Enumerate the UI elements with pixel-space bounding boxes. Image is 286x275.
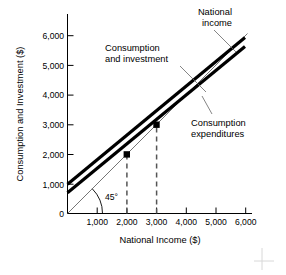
- origin-label: 0: [59, 209, 64, 219]
- y-tick-label-5000: 5,000: [42, 61, 64, 71]
- annotation-consumption-and-investment-line2: and investment: [105, 54, 168, 64]
- y-tick-label-1000: 1,000: [42, 180, 64, 190]
- y-tick-label-3000: 3,000: [42, 120, 64, 130]
- chart-figure: 1,000 2,000 3,000 4,000 5,000 6,000 0 Co…: [0, 0, 286, 275]
- data-point-2000: [124, 151, 130, 157]
- y-tick-label-2000: 2,000: [42, 150, 64, 160]
- angle-label: 45°: [105, 192, 118, 202]
- x-tick-label-1000: 1,000: [86, 217, 108, 227]
- x-tick-label-3000: 3,000: [146, 217, 168, 227]
- x-tick-label-2000: 2,000: [116, 217, 138, 227]
- y-tick-label-6000: 6,000: [42, 31, 64, 41]
- annotation-consumption-expenditures-line2: expenditures: [191, 129, 245, 139]
- y-tick-label-4000: 4,000: [42, 90, 64, 100]
- x-axis-title: National Income ($): [119, 235, 200, 245]
- annotation-national-income-line2: income: [202, 18, 232, 28]
- economics-line-chart: 1,000 2,000 3,000 4,000 5,000 6,000 0 Co…: [0, 0, 286, 275]
- y-axis-title: Consumption and Investment ($): [15, 47, 25, 182]
- x-tick-label-4000: 4,000: [176, 217, 198, 227]
- annotation-consumption-expenditures-line1: Consumption: [191, 118, 246, 128]
- annotation-consumption-and-investment-line1: Consumption: [105, 43, 160, 53]
- annotation-national-income-line1: National: [198, 7, 232, 17]
- data-point-3000: [153, 122, 159, 128]
- x-tick-label-6000: 6,000: [235, 217, 257, 227]
- x-tick-label-5000: 5,000: [205, 217, 227, 227]
